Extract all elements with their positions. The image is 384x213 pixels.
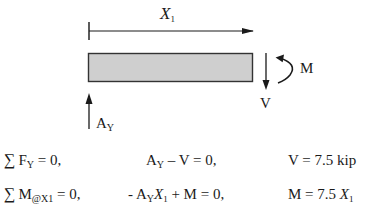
mid-a: A [146,152,157,168]
dimension-line-x1 [89,22,254,40]
equation-lhs: ∑FY = 0, [4,149,61,176]
moment-curved-arrow-icon [276,54,293,83]
mid-a: - A [128,186,147,202]
var-x: X [160,4,170,23]
subscript-1: 1 [170,14,175,24]
equation-row-force: ∑FY = 0, AY – V = 0, V = 7.5 kip [0,149,384,171]
mid-sub-y: Y [147,193,154,204]
sigma-icon: ∑ [4,185,15,202]
lhs-sub: Y [27,159,34,170]
equation-result: M = 7.5 X1 [288,183,353,210]
reaction-arrow-up-icon [86,93,93,129]
lhs-sub: @X1 [32,193,53,204]
equation-row-moment: ∑M@X1 = 0, - AYX1 + M = 0, M = 7.5 X1 [0,183,384,205]
moment-label-text: M [300,60,313,76]
mid-rest: + M = 0, [168,186,225,202]
result-sub-1: 1 [349,194,354,204]
lhs-main: M [18,186,31,202]
shear-label: V [260,96,271,111]
mid-var-x: X [154,186,163,202]
lhs-main: F [18,152,26,168]
arrow-right-icon [242,28,254,34]
mid-sub-y: Y [157,159,164,170]
reaction-label-sub: Y [107,122,114,133]
lhs-rest: = 0, [34,152,61,168]
result-var-x: X [340,186,349,202]
mid-rest: – V = 0, [164,152,217,168]
equation-lhs: ∑M@X1 = 0, [4,183,80,210]
shear-label-text: V [260,95,271,111]
equation-mid: AY – V = 0, [146,149,217,176]
beam-segment [89,54,253,82]
result-main: M = 7.5 [288,186,340,202]
reaction-label-main: A [96,115,107,131]
shear-arrow-down-icon [263,53,270,90]
result-text: V = 7.5 kip [288,152,356,168]
equation-result: V = 7.5 kip [288,149,356,171]
lhs-rest: = 0, [53,186,80,202]
reaction-label: AY [96,116,114,133]
equation-mid: - AYX1 + M = 0, [128,183,224,210]
free-body-diagram [0,0,384,213]
sigma-icon: ∑ [4,151,15,168]
dimension-label-x1: X1 [160,5,175,24]
moment-label: M [300,61,313,76]
